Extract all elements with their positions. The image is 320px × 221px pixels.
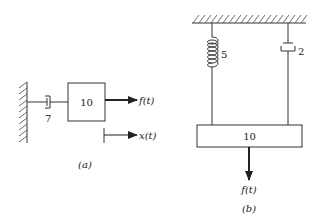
caption-a: (a) [78,159,92,170]
displacement-label: x(t) [139,130,157,141]
damper-coefficient-label: 7 [45,113,51,124]
spring-constant-label: 5 [221,49,227,60]
diagram-a: 7 10 f(t) x(t) (a) [19,82,157,170]
caption-b: (b) [242,203,256,214]
mass-value-label: 10 [80,97,93,108]
damper-icon [27,96,68,108]
mass-value-label: 10 [243,131,256,142]
mechanical-systems-diagram: 7 10 f(t) x(t) (a) [0,0,320,221]
force-label: f(t) [138,95,155,106]
ceiling-icon [192,15,307,23]
force-label: f(t) [240,184,257,195]
spring-icon [208,23,219,125]
diagram-b: 5 2 10 f(t) (b) [192,15,307,214]
wall-icon [19,82,27,143]
damper-coefficient-label: 2 [298,46,304,57]
damper-icon [281,23,295,125]
